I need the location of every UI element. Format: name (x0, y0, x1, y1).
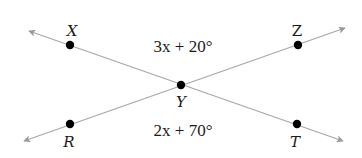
point-z (294, 41, 302, 49)
angle-label-top: 3x + 20° (154, 37, 213, 56)
label-x: X (66, 22, 79, 40)
label-y: Y (176, 93, 188, 111)
label-z: Z (292, 22, 302, 40)
point-r (66, 120, 74, 128)
label-r: R (62, 133, 74, 151)
label-t: T (290, 133, 301, 151)
point-t (293, 120, 301, 128)
intersecting-lines-diagram: X Z Y R T 3x + 20° 2x + 70° (0, 0, 362, 158)
point-y (177, 81, 185, 89)
angle-label-bottom: 2x + 70° (154, 121, 213, 140)
point-x (66, 41, 74, 49)
